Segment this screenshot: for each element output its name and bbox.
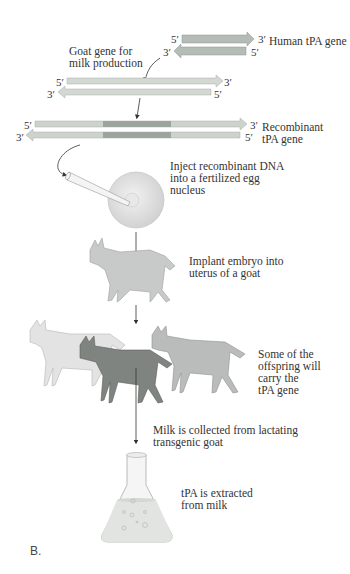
surrogate-goat — [90, 238, 175, 302]
step-extract-label: tPA is extracted from milk — [181, 487, 253, 511]
goat-bottom-3prime: 3′ — [47, 88, 55, 100]
human-tpa-gene-label: Human tPA gene — [269, 35, 347, 47]
recombinant-top-3prime: 3′ — [250, 119, 258, 131]
recombinant-bottom-3prime: 3′ — [16, 131, 24, 143]
diagram-graphics — [0, 0, 350, 574]
goat-top-3prime: 3′ — [224, 76, 232, 88]
goat-top-5prime: 5′ — [56, 76, 64, 88]
injection-arrow — [58, 145, 80, 175]
goat-gene-label: Goat gene for milk production — [69, 45, 143, 69]
goat-bottom-5prime: 5′ — [214, 88, 222, 100]
step-offspring-label: Some of the offspring will carry the tPA… — [258, 348, 321, 396]
step-milk-label: Milk is collected from lactating transge… — [153, 424, 298, 448]
step-inject-label: Inject recombinant DNA into a fertilized… — [170, 160, 284, 196]
recombinant-tpa-dna — [26, 118, 247, 141]
step-implant-label: Implant embryo into uterus of a goat — [189, 255, 284, 279]
arrow-to-recombinant — [137, 98, 140, 117]
recombinant-bottom-5prime: 5′ — [245, 131, 253, 143]
human-top-5prime: 5′ — [171, 33, 179, 45]
recombinant-tpa-gene-label: Recombinant tPA gene — [262, 121, 323, 145]
human-bottom-5prime: 5′ — [251, 46, 259, 58]
human-top-3prime: 3′ — [258, 33, 266, 45]
erlenmeyer-flask — [102, 453, 173, 543]
recombinant-top-5prime: 5′ — [24, 119, 32, 131]
human-tpa-dna — [174, 32, 254, 58]
offspring-goat-gray — [152, 326, 245, 393]
goat-milk-gene-dna — [58, 75, 223, 98]
insertion-arrow — [145, 58, 160, 80]
figure-caption: B. — [30, 544, 41, 558]
human-bottom-3prime: 3′ — [163, 46, 171, 58]
